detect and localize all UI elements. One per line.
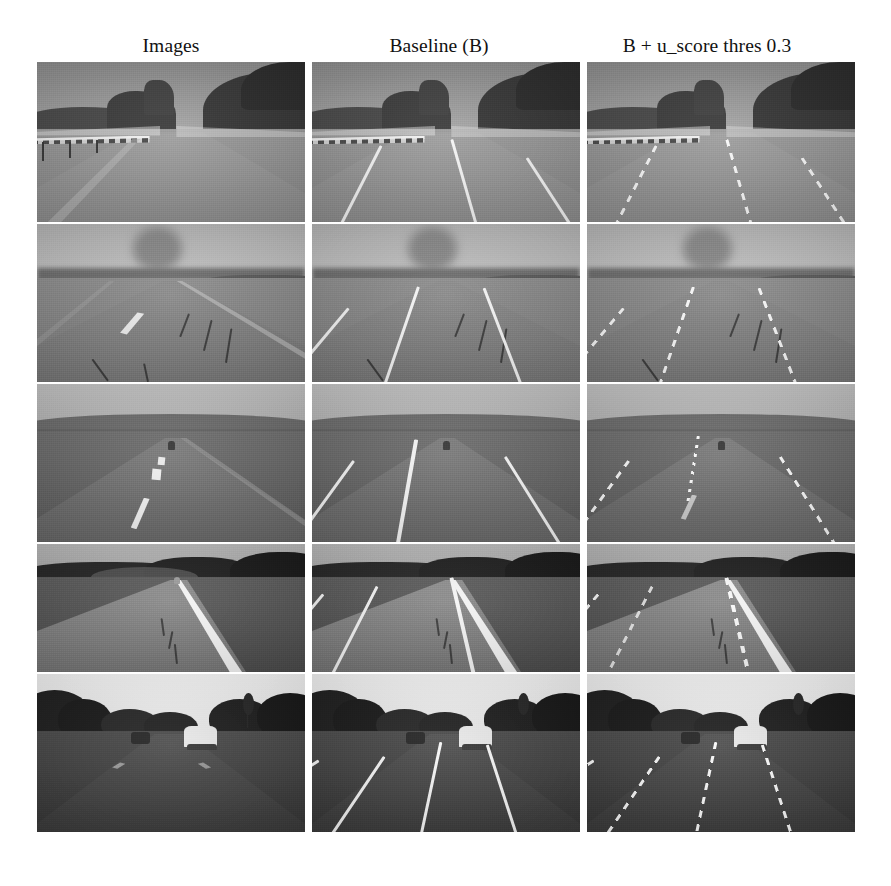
results-grid — [37, 62, 855, 845]
panel-row3-baseline — [312, 384, 580, 542]
panel-row3-images — [37, 384, 305, 542]
column-header-images: Images — [37, 33, 305, 61]
panel-row4-baseline — [312, 544, 580, 672]
panel-row4-images — [37, 544, 305, 672]
panel-row1-images — [37, 62, 305, 222]
column-header-row: Images Baseline (B) B + u_score thres 0.… — [37, 33, 855, 61]
panel-row5-baseline — [312, 674, 580, 832]
panel-row2-images — [37, 224, 305, 382]
column-header-baseline: Baseline (B) — [305, 33, 573, 61]
column-header-uscore: B + u_score thres 0.3 — [573, 33, 841, 61]
panel-row5-images — [37, 674, 305, 832]
panel-row2-uscore — [587, 224, 855, 382]
figure-qualitative-results: Images Baseline (B) B + u_score thres 0.… — [0, 0, 891, 886]
panel-row4-uscore — [587, 544, 855, 672]
panel-row1-uscore — [587, 62, 855, 222]
panel-row2-baseline — [312, 224, 580, 382]
panel-row5-uscore — [587, 674, 855, 832]
panel-row3-uscore — [587, 384, 855, 542]
panel-row1-baseline — [312, 62, 580, 222]
